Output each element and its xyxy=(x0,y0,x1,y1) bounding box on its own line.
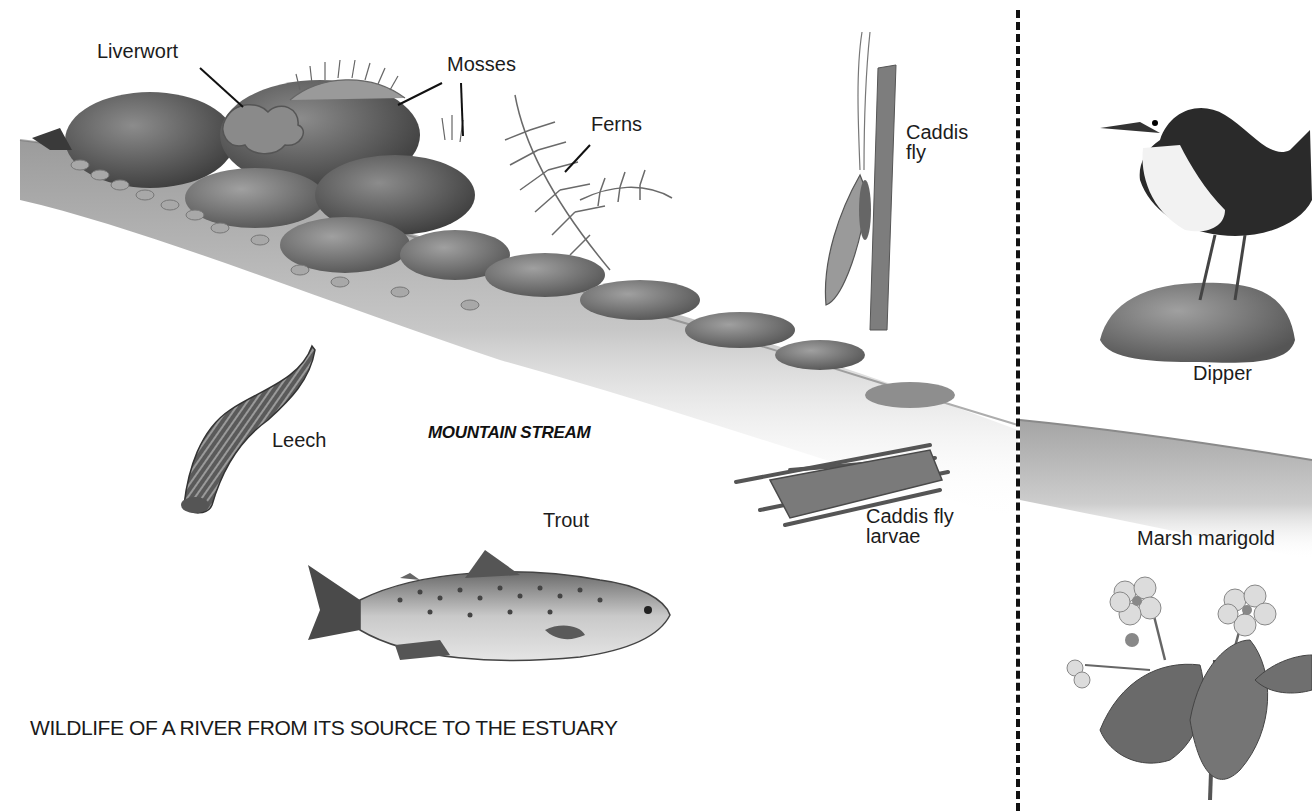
label-leech: Leech xyxy=(272,429,327,451)
trout-illustration xyxy=(308,550,670,660)
ferns-illustration xyxy=(505,95,672,270)
section-divider xyxy=(1016,10,1020,811)
label-dipper: Dipper xyxy=(1193,362,1252,384)
label-caddis-fly-larvae: Caddis fly larvae xyxy=(866,506,954,546)
section-title-mountain-stream: MOUNTAIN STREAM xyxy=(428,423,590,443)
river-wildlife-illustration: Liverwort Mosses Ferns Caddis fly Leech … xyxy=(0,0,1312,811)
label-trout: Trout xyxy=(543,509,589,531)
label-caddis-fly: Caddis fly xyxy=(906,122,968,162)
label-liverwort: Liverwort xyxy=(97,40,178,62)
figure-caption: WILDLIFE OF A RIVER FROM ITS SOURCE TO T… xyxy=(30,716,618,740)
caddis-fly-illustration xyxy=(825,32,896,330)
illustration-canvas xyxy=(0,0,1312,811)
marsh-marigold-illustration xyxy=(1067,577,1312,800)
label-ferns: Ferns xyxy=(591,113,642,135)
dipper-illustration xyxy=(1100,108,1312,363)
label-marsh-marigold: Marsh marigold xyxy=(1137,527,1275,549)
label-mosses: Mosses xyxy=(447,53,516,75)
